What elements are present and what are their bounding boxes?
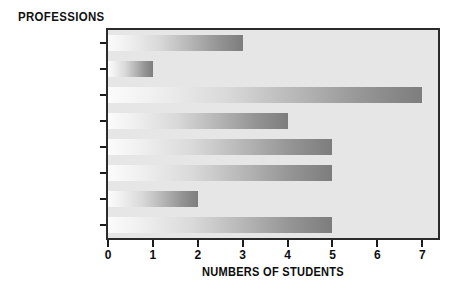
y-tick-mark: [100, 146, 106, 148]
x-tick-label: 3: [231, 248, 255, 262]
x-tick-label: 4: [276, 248, 300, 262]
bar-fill: [108, 61, 153, 77]
x-tick-label: 2: [186, 248, 210, 262]
y-tick-mark: [100, 94, 106, 96]
bar-fill: [108, 191, 198, 207]
x-tick-mark: [197, 240, 199, 247]
bar-fill: [108, 87, 422, 103]
x-tick-mark: [331, 240, 333, 247]
y-tick-mark: [100, 120, 106, 122]
bar-fill: [108, 139, 332, 155]
bar-scientist: [108, 87, 422, 103]
y-tick-mark: [100, 224, 106, 226]
bars-container: [108, 30, 438, 238]
x-tick-label: 5: [320, 248, 344, 262]
bar-fill: [108, 217, 332, 233]
bar-fill: [108, 113, 288, 129]
bar-chef: [108, 61, 153, 77]
bar-fill: [108, 165, 332, 181]
bar-actor: [108, 191, 198, 207]
y-tick-mark: [100, 172, 106, 174]
x-tick-mark: [421, 240, 423, 247]
x-tick-label: 6: [365, 248, 389, 262]
x-tick-label: 1: [141, 248, 165, 262]
x-tick-mark: [287, 240, 289, 247]
x-tick-label: 0: [96, 248, 120, 262]
bar-chart: PROFESSIONS Basketball playerChefScienti…: [0, 0, 459, 293]
bar-writer: [108, 139, 332, 155]
bar-teacher: [108, 217, 332, 233]
bar-fill: [108, 35, 243, 51]
chart-title: PROFESSIONS: [18, 9, 105, 24]
y-tick-mark: [100, 42, 106, 44]
y-tick-mark: [100, 68, 106, 70]
bar-carpenter: [108, 113, 288, 129]
x-tick-mark: [376, 240, 378, 247]
x-tick-label: 7: [410, 248, 434, 262]
x-tick-mark: [242, 240, 244, 247]
plot-area: [106, 28, 440, 240]
x-tick-mark: [107, 240, 109, 247]
bar-doctor: [108, 165, 332, 181]
y-tick-mark: [100, 198, 106, 200]
x-tick-mark: [152, 240, 154, 247]
x-axis-title: NUMBERS OF STUDENTS: [119, 265, 426, 279]
bar-basketball-player: [108, 35, 243, 51]
